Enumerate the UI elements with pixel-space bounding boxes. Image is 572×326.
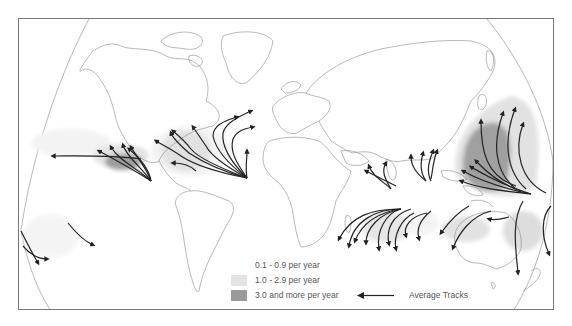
map-frame: 0.1 - 0.9 per year 1.0 - 2.9 per year 3.…	[18, 18, 554, 310]
left-arrow-icon	[357, 291, 395, 300]
legend-swatch-mid	[231, 275, 247, 286]
legend-label-mid: 1.0 - 2.9 per year	[255, 275, 320, 286]
legend-swatch-high	[231, 290, 247, 301]
legend-tracks-label: Average Tracks	[409, 290, 468, 301]
legend-label-low: 0.1 - 0.9 per year	[255, 260, 320, 271]
legend-label-high: 3.0 and more per year	[255, 290, 339, 301]
